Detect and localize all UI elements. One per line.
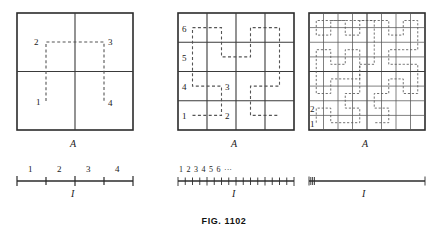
cell-number: 1 (36, 97, 41, 107)
cell-number: 1 (310, 119, 315, 129)
interval-number: 1 (179, 165, 183, 174)
square-label-a: A (230, 138, 238, 149)
cell-number: 5 (182, 53, 187, 63)
grid-lines (309, 13, 425, 130)
panel-2-graphic: 1 2 3 4 5 6 A (150, 0, 300, 200)
cell-number: 4 (182, 82, 187, 92)
cell-number: 4 (108, 98, 113, 108)
interval-number: 3 (86, 164, 91, 174)
interval-number: 5 (209, 165, 213, 174)
interval-number: 4 (115, 164, 120, 174)
cell-number: 3 (225, 82, 230, 92)
cell-number: 6 (182, 24, 187, 34)
panel-3: 1 2 A I (300, 0, 448, 200)
interval-number: 3 (194, 165, 198, 174)
cell-number: 2 (225, 111, 230, 121)
panel-1-graphic: 1 2 3 4 A 1 2 3 4 I (0, 0, 150, 200)
interval-number: ··· (224, 165, 232, 174)
cell-number: 3 (108, 37, 113, 47)
panel-1: 1 2 3 4 A 1 2 3 4 I (0, 0, 150, 200)
figure-root: 1 2 3 4 A 1 2 3 4 I (0, 0, 448, 228)
cell-number: 1 (182, 111, 187, 121)
cell-number: 2 (34, 37, 39, 47)
interval-number: 2 (187, 165, 191, 174)
interval-label-i: I (70, 188, 75, 199)
interval-label-i: I (361, 188, 366, 199)
interval-label-i: I (231, 188, 236, 199)
square-label-a: A (69, 138, 77, 149)
figure-caption: FIG. 1102 (0, 216, 448, 226)
interval-number: 6 (217, 165, 221, 174)
interval-number: 2 (57, 164, 62, 174)
interval-number: 1 (28, 164, 33, 174)
cell-number: 2 (310, 104, 315, 114)
panel-2: 1 2 3 4 5 6 A (150, 0, 300, 200)
panel-3-graphic: 1 2 A I (300, 0, 448, 200)
square-label-a: A (361, 138, 369, 149)
interval-number: 4 (202, 165, 206, 174)
